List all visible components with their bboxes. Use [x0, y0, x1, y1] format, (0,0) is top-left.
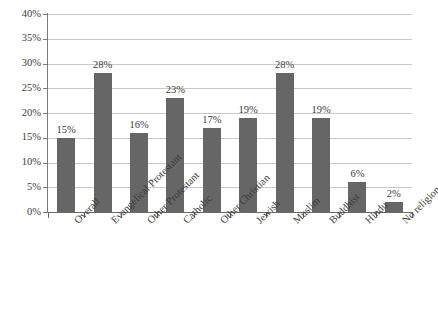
y-tick-mark	[43, 64, 48, 65]
gridline	[48, 14, 412, 15]
bar-value-label: 28%	[83, 59, 123, 70]
bar-chart: 0%5%10%15%20%25%30%35%40% 15%28%16%23%17…	[0, 0, 438, 310]
y-tick-label: 15%	[0, 132, 41, 142]
y-tick-label: 0%	[0, 207, 41, 217]
gridline	[48, 39, 412, 40]
y-tick-mark	[43, 138, 48, 139]
bar-value-label: 16%	[119, 119, 159, 130]
bar-value-label: 15%	[46, 124, 86, 135]
y-tick-mark	[43, 88, 48, 89]
y-tick-label: 20%	[0, 108, 41, 118]
x-category-label-text: Other Protestant	[145, 218, 153, 226]
x-category-label-text: Buddhist	[327, 218, 335, 226]
y-tick-mark	[43, 39, 48, 40]
x-category-label-text: Muslim	[291, 218, 299, 226]
bar	[276, 73, 294, 212]
x-category-label-text: Jewish	[254, 218, 262, 226]
x-tick-mark	[48, 213, 49, 218]
bar	[94, 73, 112, 212]
bar-value-label: 2%	[374, 188, 414, 199]
x-category-label-text: Overall	[72, 218, 80, 226]
y-tick-label: 25%	[0, 83, 41, 93]
y-tick-label: 5%	[0, 182, 41, 192]
x-category-label-text: No religion	[400, 218, 408, 226]
y-tick-mark	[43, 163, 48, 164]
x-category-label-text: Catholic	[181, 218, 189, 226]
y-tick-label: 10%	[0, 157, 41, 167]
y-tick-label: 40%	[0, 9, 41, 19]
x-category-label-text: Hindu	[363, 218, 371, 226]
y-tick-label: 35%	[0, 33, 41, 43]
bar-value-label: 19%	[301, 104, 341, 115]
y-tick-label: 30%	[0, 58, 41, 68]
bar-value-label: 23%	[155, 84, 195, 95]
y-tick-mark	[43, 14, 48, 15]
x-category-label-text: Evangelical Protestant	[109, 218, 117, 226]
x-category-label-text: Other Christian	[218, 218, 226, 226]
y-tick-mark	[43, 113, 48, 114]
bar-value-label: 6%	[337, 168, 377, 179]
bar-value-label: 28%	[265, 59, 305, 70]
bar-value-label: 17%	[192, 114, 232, 125]
y-tick-mark	[43, 187, 48, 188]
bar-value-label: 19%	[228, 104, 268, 115]
bar	[57, 138, 75, 212]
